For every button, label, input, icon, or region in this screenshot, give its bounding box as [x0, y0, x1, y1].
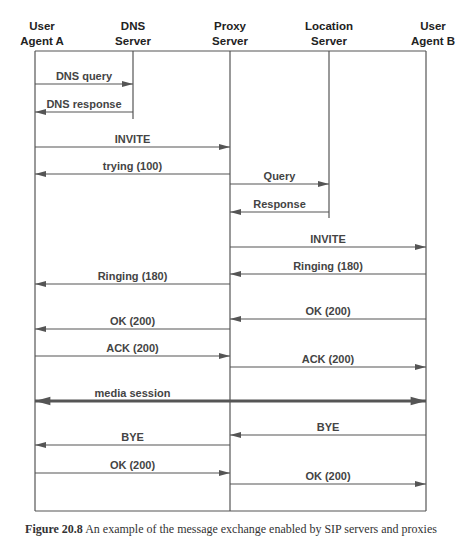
participant-name-line2: Agent A	[0, 34, 92, 49]
message-label: OK (200)	[35, 459, 230, 471]
message-label: BYE	[35, 431, 230, 443]
participant-name-line1: User	[0, 19, 92, 34]
participant-name-line1: Location	[279, 19, 379, 34]
participant-name-line1: DNS	[83, 19, 183, 34]
participant-header-ua-a: UserAgent A	[0, 19, 92, 49]
participant-header-proxy: ProxyServer	[180, 19, 280, 49]
participant-name-line2: Server	[180, 34, 280, 49]
figure-caption: Figure 20.8 An example of the message ex…	[0, 522, 462, 536]
message-label: trying (100)	[35, 160, 230, 172]
arrowhead-icon	[411, 397, 426, 405]
message-label: ACK (200)	[230, 353, 426, 365]
message-label: ACK (200)	[35, 342, 230, 354]
participant-name-line1: Proxy	[180, 19, 280, 34]
participant-header-ua-b: UserAgent B	[383, 19, 462, 49]
participant-name-line2: Agent B	[383, 34, 462, 49]
message-label: OK (200)	[230, 470, 426, 482]
message-label: DNS query	[35, 70, 133, 82]
participant-name-line1: User	[383, 19, 462, 34]
message-label: OK (200)	[230, 305, 426, 317]
message-label: INVITE	[230, 233, 426, 245]
participant-name-line2: Server	[279, 34, 379, 49]
participant-header-location: LocationServer	[279, 19, 379, 49]
message-label: Ringing (180)	[230, 260, 426, 272]
participant-header-dns: DNSServer	[83, 19, 183, 49]
sip-sequence-diagram: UserAgent ADNSServerProxyServerLocationS…	[0, 0, 462, 536]
message-label: INVITE	[35, 133, 230, 145]
caption-text: An example of the message exchange enabl…	[85, 522, 437, 536]
message-label: Ringing (180)	[35, 270, 230, 282]
message-label: media session	[35, 387, 230, 399]
message-label: Response	[230, 198, 329, 210]
participant-name-line2: Server	[83, 34, 183, 49]
message-label: Query	[230, 170, 329, 182]
caption-prefix: Figure 20.8	[25, 522, 83, 536]
message-label: OK (200)	[35, 315, 230, 327]
message-label: BYE	[230, 421, 426, 433]
message-label: DNS response	[35, 98, 133, 110]
